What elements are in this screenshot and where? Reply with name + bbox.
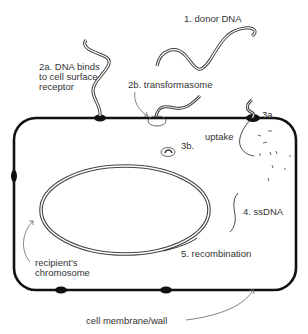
ssdna-strand — [230, 193, 238, 232]
recipient-chromosome — [41, 166, 209, 254]
knob-left — [11, 170, 17, 182]
arrow-membrane — [186, 290, 253, 320]
transformasome-3b — [161, 148, 175, 157]
knob-bottom-right — [160, 287, 172, 294]
label-uptake: uptake — [205, 132, 234, 142]
degraded-fragments — [258, 131, 290, 181]
arrow-chromosome — [24, 221, 33, 262]
label-donor-dna: 1. donor DNA — [184, 14, 242, 24]
label-recombination: 5. recombination — [181, 249, 251, 259]
label-2a-line3: receptor — [39, 82, 74, 92]
donor-dna — [157, 28, 255, 69]
label-membrane: cell membrane/wall — [86, 316, 167, 326]
transformasome-dna — [156, 96, 200, 117]
transformation-diagram — [0, 0, 308, 334]
label-transformasome: 2b. transformasome — [128, 80, 212, 90]
label-ssdna: 4. ssDNA — [243, 207, 283, 217]
label-3a: 3a. — [262, 110, 275, 120]
label-chromosome-line2: chromosome — [35, 268, 90, 278]
knob-bottom — [55, 287, 67, 294]
label-3b: 3b. — [181, 141, 194, 151]
uptake-dna-3a — [240, 100, 254, 156]
